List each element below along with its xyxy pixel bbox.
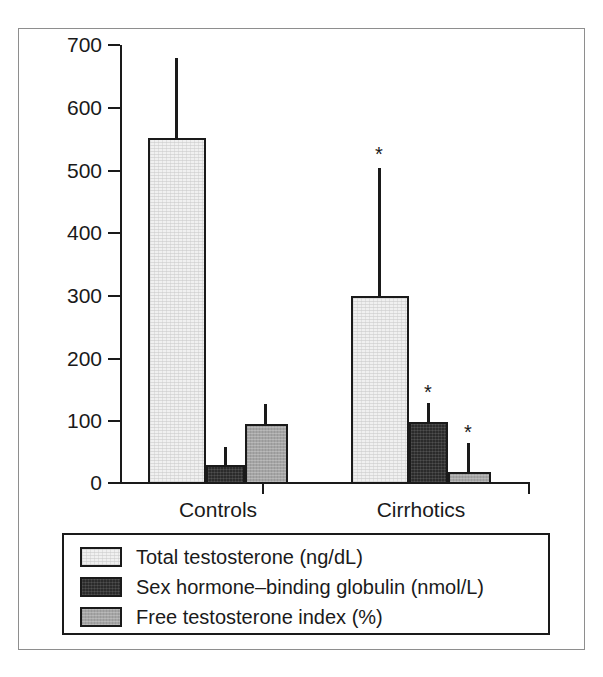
legend-label-total-testosterone: Total testosterone (ng/dL) (136, 546, 363, 568)
y-tick-500 (108, 170, 120, 172)
legend-swatch-total-testosterone (80, 547, 122, 567)
errorbar-controls-total-testosterone (175, 58, 178, 140)
bar-cirrhotics-total-testosterone (351, 296, 409, 484)
y-tick-label-0: 0 (30, 472, 102, 493)
y-tick-label-300-wrap: 300 (24, 285, 102, 306)
figure-container: 700 600 500 400 300 200 100 0 (0, 0, 603, 677)
legend-swatch-free-testosterone-index (80, 607, 122, 627)
y-tick-label-400: 400 (30, 222, 102, 243)
y-tick-label-600-wrap: 600 (24, 97, 102, 118)
legend-label-free-testosterone-index: Free testosterone index (%) (136, 606, 383, 628)
bar-controls-total-testosterone (148, 138, 206, 484)
errorbar-cirrhotics-free-testosterone-index (467, 443, 470, 474)
x-tick-group-divider-left (262, 484, 264, 494)
errorbar-controls-free-testosterone-index (264, 404, 267, 426)
y-tick-label-100-wrap: 100 (24, 410, 102, 431)
y-tick-200 (108, 358, 120, 360)
y-tick-label-500-wrap: 500 (24, 160, 102, 181)
y-tick-0 (108, 482, 120, 484)
y-tick-label-200-wrap: 200 (24, 348, 102, 369)
x-category-label-controls: Controls (148, 498, 288, 522)
y-tick-400 (108, 232, 120, 234)
legend-swatch-shbg (80, 577, 122, 597)
errorbar-cirrhotics-shbg (427, 403, 430, 424)
x-tick-group-divider-right (528, 484, 530, 494)
legend-label-shbg: Sex hormone–binding globulin (nmol/L) (136, 576, 484, 598)
y-tick-label-700: 700 (30, 34, 102, 55)
y-tick-label-700-wrap: 700 (24, 34, 102, 55)
y-tick-700 (108, 44, 120, 46)
y-tick-label-500: 500 (30, 160, 102, 181)
x-category-label-cirrhotics: Cirrhotics (351, 498, 491, 522)
y-tick-label-200: 200 (30, 348, 102, 369)
legend-item-free-testosterone-index: Free testosterone index (%) (80, 603, 383, 631)
legend-item-total-testosterone: Total testosterone (ng/dL) (80, 543, 363, 571)
errorbar-controls-shbg (224, 447, 227, 467)
y-tick-label-300: 300 (30, 285, 102, 306)
y-tick-300 (108, 295, 120, 297)
y-tick-600 (108, 107, 120, 109)
y-tick-label-400-wrap: 400 (24, 222, 102, 243)
y-axis-line (120, 45, 122, 484)
legend: Total testosterone (ng/dL) Sex hormone–b… (62, 533, 550, 635)
y-tick-label-100: 100 (30, 410, 102, 431)
bar-controls-shbg (206, 465, 245, 484)
bar-cirrhotics-shbg (409, 422, 448, 484)
significance-star-cirrhotics-free-testosterone-index: * (458, 422, 478, 442)
significance-star-cirrhotics-total-testosterone: * (369, 144, 389, 164)
significance-star-cirrhotics-shbg: * (418, 382, 438, 402)
y-tick-label-600: 600 (30, 97, 102, 118)
legend-item-shbg: Sex hormone–binding globulin (nmol/L) (80, 573, 484, 601)
errorbar-cirrhotics-total-testosterone (378, 168, 381, 298)
y-tick-100 (108, 420, 120, 422)
bar-controls-free-testosterone-index (245, 424, 288, 484)
y-tick-label-0-wrap: 0 (24, 472, 102, 493)
